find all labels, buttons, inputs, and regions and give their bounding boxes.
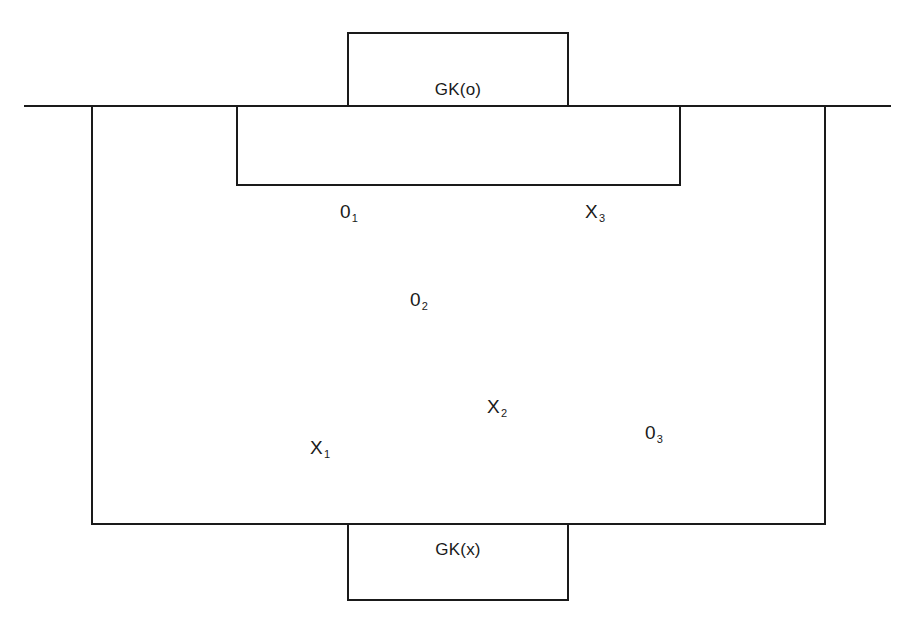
gk-o-label: GK(o)	[435, 80, 481, 100]
penalty-area-top	[237, 106, 680, 185]
player-label-o3: 03	[645, 422, 662, 444]
player-base-x2: X	[487, 396, 500, 417]
player-base-o3: 0	[645, 422, 656, 443]
player-base-x3: X	[585, 201, 598, 222]
player-subscript-o1: 1	[352, 212, 358, 224]
player-subscript-o2: 2	[422, 300, 428, 312]
player-base-o2: 0	[410, 289, 421, 310]
player-subscript-x2: 2	[501, 407, 507, 419]
diagram-canvas: GK(o) GK(x) 01 X3 02 X2 X1 03	[0, 0, 915, 629]
player-subscript-x1: 1	[324, 448, 330, 460]
player-label-x3: X3	[585, 201, 604, 223]
player-base-o1: 0	[340, 201, 351, 222]
player-base-x1: X	[310, 437, 323, 458]
player-label-o1: 01	[340, 201, 357, 223]
player-label-x1: X1	[310, 437, 329, 459]
player-subscript-x3: 3	[599, 212, 605, 224]
player-label-x2: X2	[487, 396, 506, 418]
gk-x-box	[348, 524, 568, 600]
gk-x-label: GK(x)	[435, 540, 480, 560]
player-subscript-o3: 3	[657, 433, 663, 445]
player-label-o2: 02	[410, 289, 427, 311]
field-outline	[92, 106, 825, 524]
